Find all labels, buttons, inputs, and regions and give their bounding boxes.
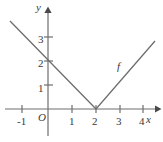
x-axis-arrow-icon (155, 105, 162, 112)
y-axis-arrow-icon (44, 7, 51, 14)
x-axis-label: x (146, 114, 151, 125)
x-tick-label-3: 3 (116, 116, 122, 127)
origin-label: O (38, 112, 46, 123)
y-tick-label-1: 1 (38, 83, 44, 94)
y-axis-label: y (36, 2, 41, 13)
x-tick-label--1: -1 (17, 116, 26, 127)
curve-label-f: f (117, 61, 120, 72)
absolute-value-graph-figure: y x O -1 1 2 3 4 1 2 3 f (0, 0, 163, 142)
y-tick-label-2: 2 (38, 58, 44, 69)
x-tick-label-1: 1 (69, 116, 75, 127)
y-tick-label-3: 3 (38, 34, 44, 45)
x-tick-label-2: 2 (92, 116, 98, 127)
x-tick-label-4: 4 (139, 116, 145, 127)
function-curve-f (10, 21, 155, 109)
